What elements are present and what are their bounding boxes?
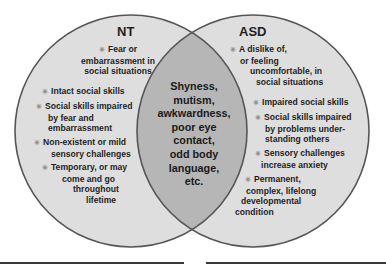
- bullet-icon: ✳: [42, 164, 48, 171]
- bullet-icon: ✳: [230, 46, 236, 53]
- bullet-icon: ✳: [255, 114, 261, 121]
- asd-item-problems: ✳Social skills impaired by problems unde…: [255, 112, 351, 145]
- bullet-icon: ✳: [42, 88, 48, 95]
- bullet-icon: ✳: [34, 139, 40, 146]
- nt-item-fear: ✳Fear or embarrassment in social situati…: [68, 44, 168, 77]
- nt-item-impaired: ✳Social skills impaired by fear and emba…: [36, 101, 132, 134]
- nt-item-temporary: ✳Temporary, or may come and go throughou…: [42, 162, 127, 205]
- bullet-icon: ✳: [36, 103, 42, 110]
- asd-title: ASD: [239, 24, 266, 39]
- asd-item-permanent: ✳Permanent, complex, lifelong developmen…: [239, 174, 316, 217]
- bullet-icon: ✳: [99, 46, 105, 53]
- bullet-icon: ✳: [255, 150, 261, 157]
- asd-item-dislike: ✳A dislike of, or feeling uncomfortable,…: [230, 44, 323, 87]
- bottom-rule-left: [0, 262, 184, 264]
- bullet-icon: ✳: [253, 99, 259, 106]
- asd-item-sensory: ✳Sensory challenges increase anxiety: [255, 148, 345, 170]
- nt-item-sensory: ✳Non-existent or mild sensory challenges: [34, 137, 131, 159]
- nt-title: NT: [117, 24, 134, 39]
- overlap-text: Shyness, mutism, awkwardness, poor eye c…: [148, 80, 240, 189]
- bullet-icon: ✳: [245, 176, 251, 183]
- asd-item-impaired: ✳Impaired social skills: [253, 97, 348, 109]
- bottom-rule-right: [206, 262, 386, 264]
- nt-item-intact: ✳Intact social skills: [42, 86, 125, 98]
